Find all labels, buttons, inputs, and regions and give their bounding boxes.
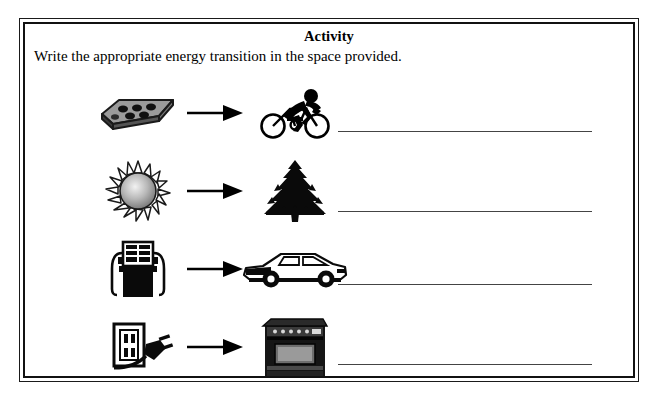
activity-row — [25, 152, 633, 230]
target-image-cell — [240, 230, 350, 308]
electrical-outlet-plug-icon — [102, 318, 174, 376]
target-image-cell — [240, 152, 350, 230]
activity-row — [25, 74, 633, 152]
chocolate-bar-icon — [99, 92, 177, 134]
gas-pump-icon — [105, 237, 171, 301]
answer-cell[interactable] — [338, 308, 600, 386]
instruction-text: Write the appropriate energy transition … — [34, 48, 402, 65]
tree-icon — [258, 160, 332, 222]
activity-row — [25, 308, 633, 386]
car-icon — [241, 248, 349, 290]
answer-line[interactable] — [338, 131, 592, 132]
answer-line[interactable] — [338, 211, 592, 212]
answer-cell[interactable] — [338, 74, 600, 152]
stove-icon — [261, 316, 329, 378]
cyclist-icon — [257, 87, 333, 139]
activity-row — [25, 230, 633, 308]
answer-cell[interactable] — [338, 152, 600, 230]
worksheet-border-inner: Activity Write the appropriate energy tr… — [23, 22, 635, 378]
answer-cell[interactable] — [338, 230, 600, 308]
page-title: Activity — [25, 28, 633, 45]
target-image-cell — [240, 308, 350, 386]
worksheet-border-outer: Activity Write the appropriate energy tr… — [19, 18, 639, 382]
right-arrow-icon — [185, 180, 245, 202]
right-arrow-icon — [185, 102, 245, 124]
answer-line[interactable] — [338, 364, 592, 365]
answer-line[interactable] — [338, 284, 592, 285]
sun-icon — [105, 160, 171, 222]
right-arrow-icon — [185, 258, 245, 280]
right-arrow-icon — [185, 336, 245, 358]
target-image-cell — [240, 74, 350, 152]
